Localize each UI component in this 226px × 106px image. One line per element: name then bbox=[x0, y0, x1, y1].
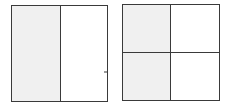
fraction-square-halves bbox=[11, 5, 108, 102]
cell-unshaded-top-right bbox=[171, 5, 219, 52]
horizontal-divider bbox=[123, 52, 219, 53]
cell-unshaded-right-half bbox=[61, 6, 107, 101]
cell-shaded-left-half bbox=[12, 6, 60, 101]
cell-unshaded-bottom-right bbox=[171, 53, 219, 100]
cell-shaded-bottom-left bbox=[123, 53, 170, 100]
cell-shaded-top-left bbox=[123, 5, 170, 52]
fraction-square-quarters bbox=[122, 4, 220, 101]
edge-mark bbox=[104, 71, 107, 73]
vertical-divider bbox=[60, 6, 61, 101]
